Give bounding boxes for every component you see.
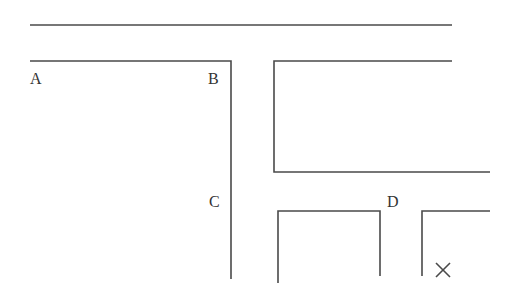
label-b: B <box>208 70 219 87</box>
street-map-diagram: A B C D <box>0 0 513 296</box>
label-a: A <box>30 70 42 87</box>
block-ab-corner <box>30 61 231 279</box>
lower-middle-block <box>278 211 380 283</box>
lower-right-block <box>422 211 490 276</box>
label-c: C <box>209 193 220 210</box>
label-d: D <box>387 193 399 210</box>
x-mark-icon <box>436 263 450 277</box>
right-upper-block <box>274 61 490 172</box>
